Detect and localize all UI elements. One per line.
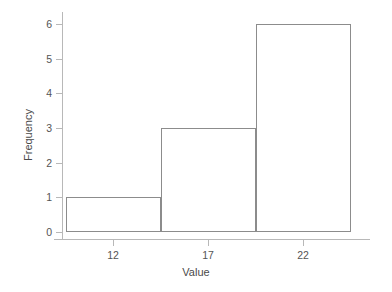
y-tick-label: 0: [36, 227, 52, 238]
y-tick-mark: [56, 59, 62, 60]
x-tick-label: 12: [93, 250, 133, 261]
x-tick-label: 22: [283, 250, 323, 261]
histogram-bar: [161, 128, 256, 232]
histogram-figure: 0123456 121722 Frequency Value: [0, 0, 392, 292]
y-tick-label: 3: [36, 123, 52, 134]
x-axis-title: Value: [0, 266, 392, 278]
x-tick-mark: [208, 240, 209, 246]
x-tick-label: 17: [188, 250, 228, 261]
y-axis-title: Frequency: [22, 25, 36, 245]
x-tick-mark: [303, 240, 304, 246]
x-axis-line: [54, 239, 370, 240]
y-tick-mark: [56, 232, 62, 233]
y-tick-label: 5: [36, 54, 52, 65]
y-tick-mark: [56, 197, 62, 198]
y-tick-mark: [56, 128, 62, 129]
histogram-bar: [66, 197, 161, 232]
x-tick-mark: [113, 240, 114, 246]
y-tick-label: 1: [36, 192, 52, 203]
y-tick-label: 4: [36, 88, 52, 99]
y-tick-mark: [56, 93, 62, 94]
y-tick-mark: [56, 163, 62, 164]
y-tick-label: 6: [36, 19, 52, 30]
histogram-bar: [256, 24, 351, 232]
y-tick-label: 2: [36, 158, 52, 169]
y-axis-line: [62, 12, 63, 240]
y-tick-mark: [56, 24, 62, 25]
